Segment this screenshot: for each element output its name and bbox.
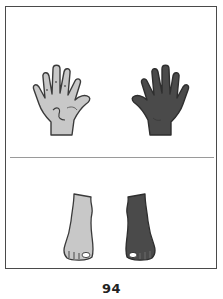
light-hand-illustration [31, 60, 95, 136]
dark-foot-illustration [123, 193, 157, 263]
section-divider [10, 157, 214, 158]
hand-icon [127, 60, 191, 136]
dark-hand-illustration [127, 60, 191, 136]
foot-icon [62, 193, 96, 263]
illustration-frame [5, 6, 217, 269]
hand-icon [31, 60, 95, 136]
foot-icon [123, 193, 157, 263]
page-number: 94 [0, 281, 223, 296]
light-foot-illustration [62, 193, 96, 263]
